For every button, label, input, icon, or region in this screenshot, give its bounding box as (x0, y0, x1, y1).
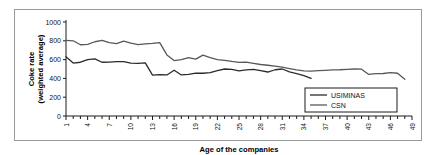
x-tick-label: 22 (214, 123, 221, 131)
series-line-usiminas (66, 57, 311, 79)
x-tick-label: 25 (236, 123, 243, 131)
x-tick-label: 40 (344, 123, 351, 131)
x-tick-label: 37 (322, 123, 329, 131)
x-axis: 1471013161922252831343740434649 (63, 116, 416, 130)
y-tick-label: 200 (49, 94, 61, 101)
y-tick-label: 1000 (45, 19, 61, 26)
x-tick-label: 31 (279, 123, 286, 131)
y-axis: 02004006008001000 (45, 19, 66, 120)
series-layer (66, 40, 405, 79)
chart-legend[interactable]: USIMINASCSN (305, 88, 397, 112)
x-tick-label: 34 (300, 123, 307, 131)
y-tick-label: 800 (49, 37, 61, 44)
x-tick-label: 13 (149, 123, 156, 131)
x-tick-label: 7 (106, 123, 113, 127)
y-axis-title-line1: Coke rate (27, 52, 36, 87)
y-tick-label: 600 (49, 56, 61, 63)
legend-label-csn[interactable]: CSN (331, 102, 346, 109)
x-tick-label: 10 (127, 123, 134, 131)
y-tick-label: 400 (49, 75, 61, 82)
x-tick-label: 16 (171, 123, 178, 131)
x-tick-label: 1 (63, 123, 70, 127)
line-chart: 02004006008001000 1471013161922252831343… (0, 0, 438, 155)
x-tick-label: 19 (192, 123, 199, 131)
x-tick-label: 46 (387, 123, 394, 131)
y-axis-title-line2: (weighted average) (36, 34, 45, 103)
x-tick-label: 43 (365, 123, 372, 131)
x-axis-title: Age of the companies (200, 145, 279, 154)
axis-labels: Age of the companiesCoke rate(weighted a… (27, 34, 278, 154)
legend-label-usiminas[interactable]: USIMINAS (331, 92, 365, 99)
x-tick-label: 28 (257, 123, 264, 131)
x-tick-label: 4 (84, 123, 91, 127)
y-tick-label: 0 (57, 113, 61, 120)
series-line-csn (66, 40, 405, 79)
chart-figure: 02004006008001000 1471013161922252831343… (0, 0, 438, 155)
x-tick-label: 49 (409, 123, 416, 131)
